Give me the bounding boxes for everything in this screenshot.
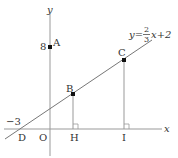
label-C: C	[118, 47, 126, 58]
graph-line	[5, 40, 152, 139]
right-angle-I	[124, 124, 129, 129]
label-H: H	[70, 132, 79, 143]
origin-label: O	[39, 132, 47, 143]
y-axis-label: y	[46, 4, 53, 15]
label-A-value: 8	[40, 41, 46, 52]
equation-numerator: 2	[144, 25, 149, 34]
label-A: A	[52, 37, 61, 48]
label-D: D	[18, 132, 26, 143]
equation-suffix: x+2	[151, 29, 171, 40]
equation-denominator: 3	[144, 35, 149, 44]
label-D-value: −3	[6, 116, 21, 127]
right-angle-H	[73, 124, 78, 129]
label-B: B	[66, 83, 73, 94]
x-axis-label: x	[164, 123, 170, 134]
coordinate-diagram: y x O 8 A B C D −3 H I y= 2 3 x+2	[0, 0, 178, 158]
point-C	[122, 58, 126, 62]
label-I: I	[122, 132, 126, 143]
point-A	[48, 45, 52, 49]
equation-prefix: y=	[128, 29, 143, 40]
